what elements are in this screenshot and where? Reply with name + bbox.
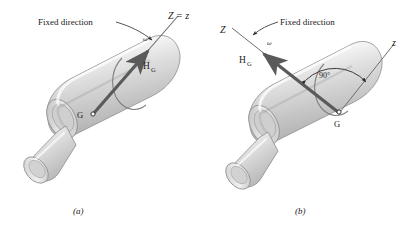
panel-b-drawing: 90° G Fixed direction Z z ω H G (b): [202, 0, 403, 225]
fixed-direction-leader-b: [253, 22, 278, 35]
omega-label-a: ω: [143, 35, 148, 42]
momentum-subscript-a: G: [151, 66, 156, 73]
panel-a: G Fixed direction Z = z ω H G (a): [0, 0, 201, 225]
momentum-subscript-b: G: [247, 60, 252, 67]
rocket-nozzle-a: [19, 126, 76, 188]
momentum-label-a: H: [143, 61, 150, 71]
axis-label-a: Z = z: [168, 10, 189, 21]
omega-label-b: ω: [267, 39, 272, 46]
center-of-mass-marker-a: [91, 112, 95, 116]
fixed-direction-label-a: Fixed direction: [38, 17, 93, 27]
center-of-mass-label-a: G: [77, 110, 83, 120]
center-of-mass-label-b: G: [334, 119, 340, 129]
rocket-body-b: [242, 41, 382, 149]
fixed-direction-label-b: Fixed direction: [280, 17, 335, 27]
rocket-body-a: [40, 35, 180, 143]
rocket-nozzle-b: [221, 132, 278, 194]
figure-container: G Fixed direction Z = z ω H G (a): [0, 0, 403, 225]
panel-caption-b: (b): [295, 206, 306, 216]
panel-a-drawing: G Fixed direction Z = z ω H G (a): [0, 0, 201, 225]
angle-label-b: 90°: [319, 71, 330, 80]
momentum-label-b: H: [239, 55, 246, 65]
panel-b: 90° G Fixed direction Z z ω H G (b): [202, 0, 403, 225]
panel-caption-a: (a): [73, 206, 84, 216]
axis-label-Z-b: Z: [220, 24, 226, 35]
center-of-mass-marker-b: [337, 110, 341, 114]
axis-label-z-b: z: [391, 37, 396, 48]
